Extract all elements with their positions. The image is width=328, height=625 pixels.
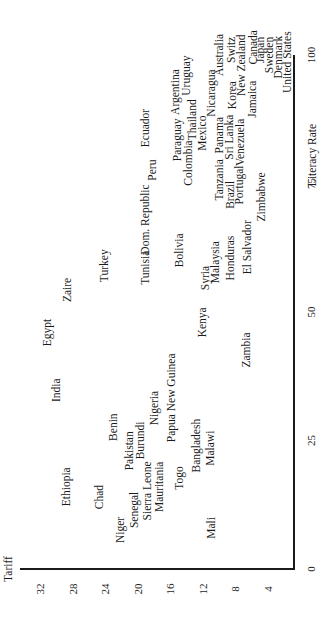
country-label: Malawi [205, 431, 217, 466]
country-label: Benin [108, 413, 120, 440]
country-label: Papua New Guinea [166, 353, 178, 442]
country-label: Venezuela [235, 119, 247, 166]
x-tick-label: 75 [305, 178, 317, 189]
y-tick-label: 32 [34, 584, 46, 595]
x-tick-label: 100 [305, 47, 317, 64]
y-tick-label: 16 [164, 584, 176, 595]
country-label: Turkey [99, 249, 111, 282]
country-label: Mexico [197, 116, 209, 151]
country-label: United States [282, 31, 294, 93]
y-tick-label: 24 [99, 584, 111, 595]
y-tick-label: 4 [262, 586, 274, 592]
country-label: Australia [214, 34, 226, 76]
country-label: Bangladesh [191, 419, 203, 473]
country-label: Ethiopia [61, 467, 73, 506]
country-label: Burundi [135, 422, 147, 460]
y-axis-title: Tariff [2, 556, 14, 582]
country-label: Colombia [183, 140, 195, 185]
y-axis-line [20, 568, 295, 570]
country-label: Mauritania [154, 462, 166, 512]
country-label: Kenya [197, 307, 209, 337]
country-label: Uruguay [181, 55, 193, 95]
country-label: India [51, 378, 63, 402]
country-label: Chad [95, 485, 107, 509]
country-label: Tunisia [140, 251, 152, 285]
country-label: Togo [174, 466, 186, 489]
x-tick-label: 50 [305, 307, 317, 318]
y-tick-label: 12 [197, 584, 209, 595]
country-label: Dom. Republic [140, 184, 152, 254]
country-label: Zimbabwe [256, 172, 268, 221]
country-label: Nigeria [149, 391, 161, 425]
country-label: Malaysia [210, 241, 222, 283]
country-label: Zambia [241, 332, 253, 367]
country-label: Bolivia [174, 233, 186, 267]
y-tick-label: 8 [229, 586, 241, 592]
country-label: Ecuador [140, 109, 152, 147]
y-tick-label: 20 [132, 584, 144, 595]
x-tick-label: 0 [305, 566, 317, 572]
country-label: El Salvador [242, 220, 254, 274]
scatter-chart: Tariff Literacy Rate 0255075100 48121620… [0, 0, 328, 625]
country-label: Niger [116, 517, 128, 543]
country-label: Senegal [130, 492, 142, 528]
x-tick-label: 25 [305, 435, 317, 446]
x-axis-line [293, 55, 295, 569]
country-label: Egypt [42, 319, 54, 346]
country-label: Peru [147, 160, 159, 181]
country-label: New Zealand [236, 34, 248, 96]
country-label: Portugal [234, 166, 246, 205]
x-axis-title: Literacy Rate [306, 124, 318, 186]
country-label: Honduras [225, 236, 237, 281]
country-label: Mali [206, 517, 218, 539]
y-tick-label: 28 [67, 584, 79, 595]
country-label: Nicaragua [206, 69, 218, 116]
country-label: Zaire [62, 278, 74, 302]
country-label: Jamaica [247, 81, 259, 118]
